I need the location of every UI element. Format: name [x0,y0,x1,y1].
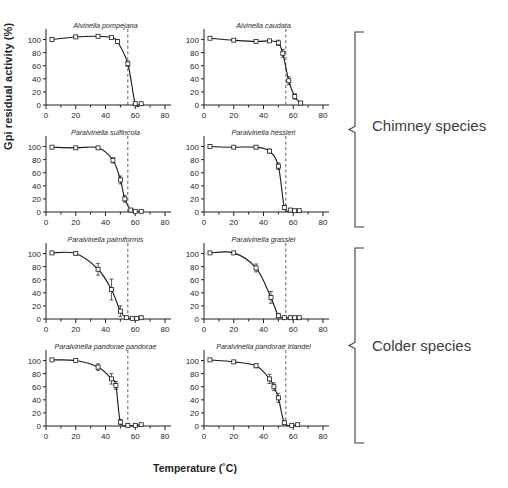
data-point-marker [109,288,113,292]
data-point-marker [276,396,280,400]
fit-curve [210,38,301,103]
panel-title: Paralvinella palmiformis [68,235,144,244]
y-tick-label: 60 [32,62,41,71]
data-point-marker [282,205,286,209]
data-point-marker [267,149,271,153]
panel-paralvinella-sulfincola: Paralvinella sulfincola02040608010002040… [28,128,171,227]
y-tick-label: 60 [32,169,41,178]
x-tick-label: 40 [259,111,268,120]
x-tick-label: 0 [202,432,207,441]
y-tick-label: 0 [195,315,200,324]
data-point-marker [208,251,212,255]
y-tick-label: 80 [190,49,199,58]
axis-lines [204,350,329,426]
x-tick-label: 60 [289,325,298,334]
data-point-marker [123,197,127,201]
data-point-marker [293,94,297,98]
axis-lines [204,243,329,319]
data-point-marker [232,145,236,149]
x-tick-label: 60 [131,325,140,334]
panel-title: Paralvinella pandorae pandorae [55,342,157,351]
x-tick-label: 60 [131,218,140,227]
y-tick-label: 40 [32,75,41,84]
y-tick-label: 40 [190,396,199,405]
x-tick-label: 20 [229,218,238,227]
x-tick-label: 80 [319,111,328,120]
y-tick-label: 20 [32,409,41,418]
data-point-marker [118,178,122,182]
data-point-marker [74,146,78,150]
panel-title: Alvinella caudata [235,21,290,30]
y-tick-label: 20 [190,409,199,418]
data-point-marker [269,295,273,299]
panel-title: Paralvinella grasslei [232,235,296,244]
data-point-marker [276,41,280,45]
x-tick-label: 80 [161,218,170,227]
data-point-marker [232,38,236,42]
y-tick-label: 60 [190,383,199,392]
y-tick-label: 80 [190,156,199,165]
y-tick-label: 40 [190,75,199,84]
data-point-marker [130,316,134,320]
y-axis-label: Gpi residual activity (%) [2,134,14,150]
y-tick-label: 100 [28,36,42,45]
panel-paralvinella-hessleri: Paralvinella hessleri0204060801000204060… [186,128,329,227]
data-point-marker [293,209,297,213]
x-tick-label: 20 [71,218,80,227]
data-point-marker [282,316,286,320]
y-tick-label: 60 [190,62,199,71]
y-tick-label: 60 [190,169,199,178]
x-tick-label: 80 [161,432,170,441]
axis-lines [46,29,171,105]
data-point-marker [208,358,212,362]
y-tick-label: 100 [186,143,200,152]
y-tick-label: 100 [28,250,42,259]
x-tick-label: 80 [161,111,170,120]
data-point-marker [96,146,100,150]
y-tick-label: 100 [28,143,42,152]
y-tick-label: 80 [190,263,199,272]
fit-curve [210,360,298,426]
data-point-marker [139,316,143,320]
data-point-marker [96,34,100,38]
data-point-marker [282,421,286,425]
data-point-marker [50,38,54,42]
x-tick-label: 40 [101,325,110,334]
panel-title: Paralvinella pandorae irlandei [216,342,311,351]
x-tick-label: 80 [161,325,170,334]
data-point-marker [288,208,292,212]
x-tick-label: 0 [202,325,207,334]
data-point-marker [267,377,271,381]
y-tick-label: 100 [28,357,42,366]
x-tick-label: 40 [101,111,110,120]
axis-lines [46,243,171,319]
data-point-marker [118,309,122,313]
thermal-denaturation-figure: Gpi residual activity (%) Temperature (˚… [0,0,508,488]
data-point-marker [287,79,291,83]
panel-alvinella-pompejana: Alvinella pompejana020406080100020406080 [28,21,171,120]
x-tick-label: 80 [319,325,328,334]
data-point-marker [254,364,258,368]
y-tick-label: 80 [32,49,41,58]
data-point-marker [74,252,78,256]
x-tick-label: 0 [202,218,207,227]
data-point-marker [133,102,137,106]
panel-alvinella-caudata: Alvinella caudata020406080100020406080 [186,21,329,120]
data-point-marker [293,316,297,320]
data-point-marker [50,251,54,255]
data-point-marker [109,377,113,381]
data-point-marker [111,158,115,162]
x-tick-label: 0 [202,111,207,120]
y-tick-label: 40 [32,182,41,191]
panel-title: Paralvinella sulfincola [71,128,140,137]
data-point-marker [139,102,143,106]
y-tick-label: 0 [195,101,200,110]
x-tick-label: 60 [289,432,298,441]
y-tick-label: 80 [32,156,41,165]
data-point-marker [109,36,113,40]
y-tick-label: 20 [190,302,199,311]
data-point-marker [126,423,130,427]
data-point-marker [276,314,280,318]
data-point-marker [124,316,128,320]
panel-paralvinella-grasslei: Paralvinella grasslei0204060801000204060… [186,235,329,334]
